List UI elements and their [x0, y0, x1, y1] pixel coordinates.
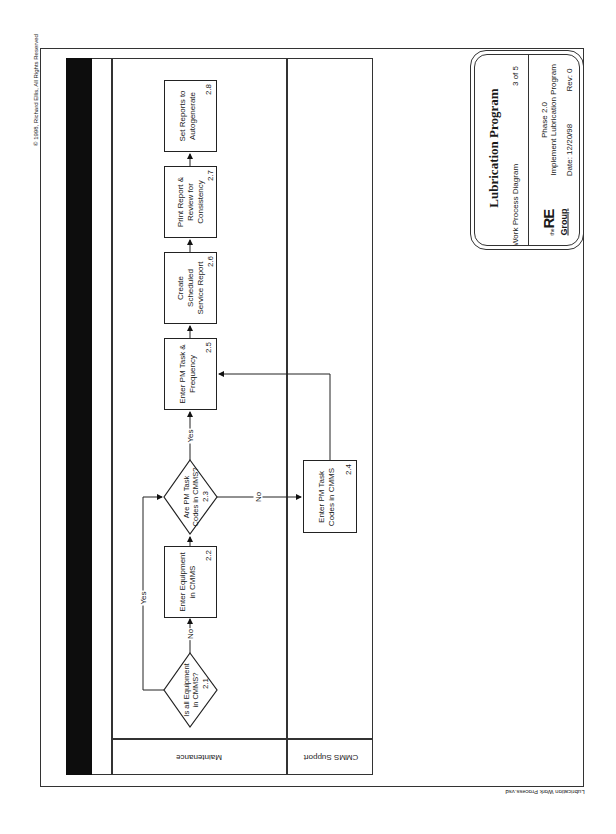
step-text-line: Service Report — [196, 262, 205, 315]
decision-2-1: Is all Equipment in CMMS? 2.1 — [164, 653, 217, 727]
step-text-line: Codes in CMMS — [327, 467, 336, 525]
step-number: 2.4 — [344, 464, 353, 475]
process-2-2: Enter Equipment in CMMS 2.2 — [164, 546, 217, 618]
step-text-line: Print Report & — [176, 177, 185, 227]
diagram-subtitle: Work Process Diagram — [511, 164, 520, 246]
step-text-line: Review for — [186, 183, 195, 221]
step-text-line: Set Reports to — [178, 90, 187, 141]
step-number: 2.2 — [204, 550, 213, 561]
step-text-line: Enter PM Task & — [178, 344, 187, 403]
phase-number: Phase 2.0 — [540, 102, 549, 138]
phase-name: Implement Lubrication Program — [549, 64, 558, 176]
step-text-line: Codes in CMMS? — [191, 468, 200, 527]
step-text-line: Enter PM Task — [317, 471, 326, 523]
title-block-divider — [528, 55, 529, 245]
step-text-line: Frequency — [188, 355, 197, 393]
re-group-logo: theRE Group — [544, 209, 569, 236]
step-number: 2.3 — [201, 491, 210, 502]
step-text-line: in CMMS — [188, 566, 197, 599]
step-text-line: Is all Equipment — [182, 663, 191, 716]
diagram-title: Lubrication Program — [486, 88, 502, 207]
logo-group: Group — [559, 209, 569, 236]
step-number: 2.8 — [204, 84, 213, 95]
step-text-line: Scheduled — [186, 269, 195, 307]
connector-label-no: No — [186, 628, 195, 640]
step-text-line: Are PM Task — [182, 476, 191, 518]
step-text-line: Create — [176, 276, 185, 300]
process-2-7: Print Report & Review for Consistency 2.… — [164, 166, 217, 238]
step-number: 2.7 — [206, 170, 215, 181]
connector-label-yes: Yes — [186, 428, 195, 443]
process-2-6: Create Scheduled Service Report 2.6 — [164, 252, 217, 324]
step-text-line: Consistency — [196, 180, 205, 224]
decision-2-3: Are PM Task Codes in CMMS? 2.3 — [164, 460, 217, 534]
process-2-8: Set Reports to Autogenerate 2.8 — [164, 80, 217, 152]
page-number: 3 of 5 — [511, 66, 520, 86]
process-2-4: Enter PM Task Codes in CMMS 2.4 — [303, 460, 357, 533]
step-number: 2.5 — [204, 342, 213, 353]
step-number: 2.1 — [201, 678, 210, 689]
logo-the: the — [549, 229, 555, 236]
step-text-line: in CMMS? — [191, 673, 200, 708]
step-number: 2.6 — [206, 256, 215, 267]
revision-number: Rev: 0 — [565, 68, 574, 91]
connector-label-yes: Yes — [139, 590, 148, 605]
connector-label-no: No — [254, 491, 263, 503]
step-text-line: Enter Equipment — [178, 552, 187, 612]
logo-re: RE — [540, 210, 557, 229]
step-text-line: Autogenerate — [188, 92, 197, 140]
revision-date: Date: 12/20/98 — [565, 124, 574, 176]
process-2-5: Enter PM Task & Frequency 2.5 — [164, 338, 217, 410]
